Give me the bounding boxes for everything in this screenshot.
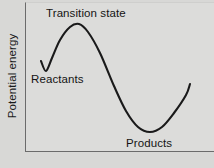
plot-area: Transition state Reactants Products xyxy=(25,2,214,152)
energy-diagram-figure: Potential energy Transition state Reacta… xyxy=(0,0,214,168)
annotation-reactants: Reactants xyxy=(31,73,84,85)
figure-bottom-margin xyxy=(0,153,214,168)
annotation-products: Products xyxy=(126,137,172,149)
y-axis-label-container: Potential energy xyxy=(0,0,24,152)
annotation-transition-state: Transition state xyxy=(46,7,126,19)
y-axis-label: Potential energy xyxy=(6,34,18,119)
